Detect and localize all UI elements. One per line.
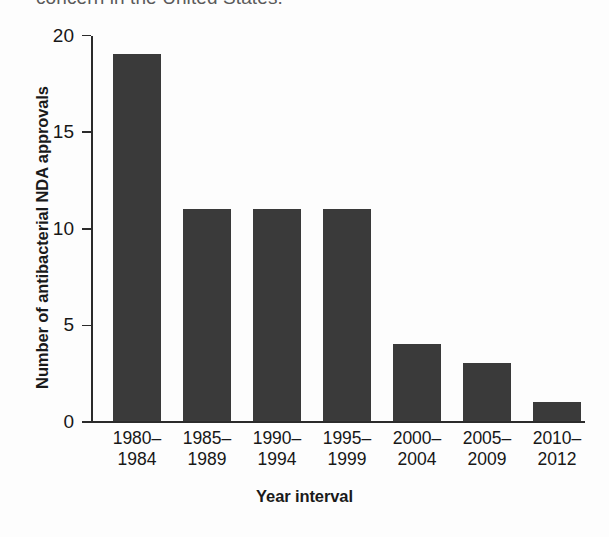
y-axis-tick: 10 xyxy=(82,228,91,230)
y-axis-tick-label: 20 xyxy=(53,25,74,47)
x-axis-tick-label-line2: 2012 xyxy=(511,449,603,470)
bar xyxy=(463,363,511,421)
y-axis-tick: 0 xyxy=(82,421,91,423)
x-axis-title: Year interval xyxy=(0,487,609,506)
y-axis-tick: 15 xyxy=(82,131,91,133)
y-axis-tick: 20 xyxy=(82,35,91,37)
y-axis-tick-label: 0 xyxy=(63,411,74,433)
y-axis-tick: 5 xyxy=(82,325,91,327)
x-axis-tick-label: 2010– 2012 xyxy=(511,428,603,470)
bar xyxy=(183,209,231,422)
bar xyxy=(113,54,161,422)
bar xyxy=(393,344,441,421)
y-axis-line xyxy=(91,36,93,423)
y-axis-tick-label: 10 xyxy=(53,218,74,240)
y-axis-tick-label: 5 xyxy=(63,314,74,336)
plot-area: 0 5 10 15 20 1980– 1984 1985– 1989 xyxy=(91,36,585,423)
y-axis-title: Number of antibacterial NDA approvals xyxy=(33,28,52,448)
bar xyxy=(533,402,581,421)
x-axis-tick-label-line1: 2010– xyxy=(511,428,603,449)
bar xyxy=(253,209,301,422)
x-axis-line xyxy=(91,421,585,423)
bar xyxy=(323,209,371,422)
y-axis-tick-label: 15 xyxy=(53,121,74,143)
bar-chart-figure: Number of antibacterial NDA approvals 0 … xyxy=(0,0,609,537)
